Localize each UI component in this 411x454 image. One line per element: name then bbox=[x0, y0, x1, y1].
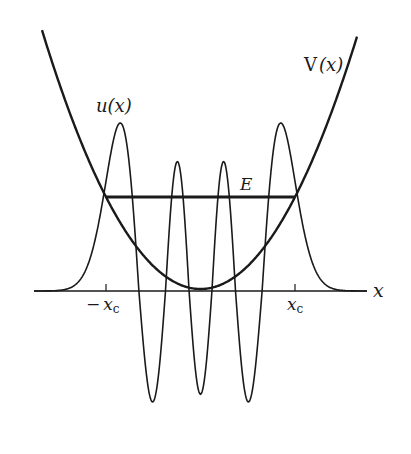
neg-turning-point-label: −xc bbox=[86, 294, 120, 316]
x-axis-label: x bbox=[373, 279, 384, 301]
neg-xc-var: x bbox=[103, 294, 113, 314]
wavefunction-label-arg: (x) bbox=[108, 95, 132, 116]
pos-turning-point-label: xc bbox=[287, 294, 304, 316]
minus-sign: − bbox=[86, 294, 100, 314]
wavefunction-curve bbox=[34, 123, 367, 402]
wavefunction-label: u(x) bbox=[96, 95, 132, 116]
potential-label-arg: (x) bbox=[319, 54, 343, 75]
wavefunction-label-fn: u bbox=[96, 95, 108, 116]
pos-xc-var: x bbox=[287, 294, 297, 314]
pos-xc-sub: c bbox=[297, 302, 304, 316]
neg-xc-sub: c bbox=[113, 302, 120, 316]
quantum-oscillator-diagram: V(x) u(x) E x −xc xc bbox=[0, 0, 411, 454]
energy-label: E bbox=[239, 174, 253, 194]
potential-label: V(x) bbox=[303, 54, 343, 75]
potential-label-fn: V bbox=[303, 54, 318, 75]
